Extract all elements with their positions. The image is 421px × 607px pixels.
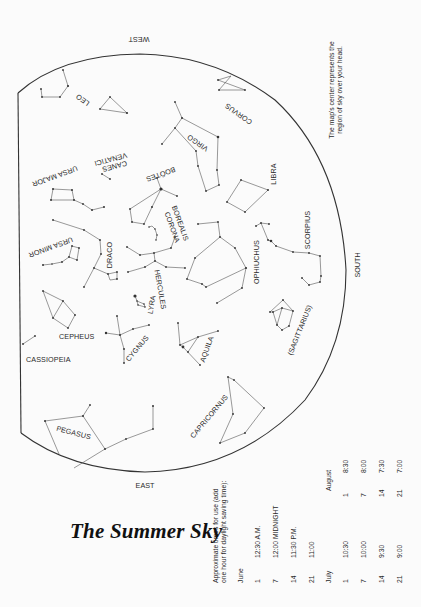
july-time-21: 9:00: [396, 545, 403, 558]
month-august: August: [325, 470, 333, 491]
august-day-21: 21: [396, 489, 403, 497]
month-july: July: [325, 570, 333, 583]
times-table: Approximate times for use (add one hour …: [212, 460, 403, 583]
direction-east: EAST: [136, 481, 155, 490]
label-sagittarius: (SAGITTARIUS): [285, 304, 313, 357]
august-time-21: 7:00: [396, 460, 403, 473]
constellation-lyra-lines: [133, 294, 145, 307]
july-time-7: 10:00: [360, 541, 367, 558]
label-ursa-major: URSA MAJOR: [31, 164, 79, 189]
july-day-1: 1: [342, 579, 349, 583]
label-scorpius: SCORPIUS: [303, 211, 312, 249]
june-time-21: 11:00: [308, 541, 315, 558]
label-pegasus: PEGASUS: [55, 424, 92, 442]
constellation-virgo-lines: [161, 101, 220, 192]
page-title: The Summer Sky: [70, 519, 222, 544]
july-time-14: 9:30: [378, 545, 385, 558]
map-note-line1: The map's center represents the: [328, 41, 336, 139]
direction-south: SOUTH: [353, 252, 362, 277]
label-corvus: CORVUS: [223, 101, 254, 126]
june-time-1: 12:30 A.M.: [254, 525, 261, 558]
june-day-7: 7: [272, 579, 279, 583]
constellation-cassiopeia-lines: [22, 335, 36, 345]
month-june: June: [237, 568, 244, 583]
constellation-sagittarius-lines: [269, 299, 294, 331]
august-time-14: 7:30: [378, 460, 385, 473]
june-time-7: 12:00 MIDNIGHT: [272, 506, 279, 559]
label-draco: DRACO: [105, 241, 114, 268]
map-note-line2: region of sky over your head.: [336, 46, 344, 134]
august-day-1: 1: [342, 493, 349, 497]
label-leo: LEO: [74, 92, 91, 108]
label-lyra: LYRA: [145, 295, 157, 315]
label-aquila: AQUILA: [198, 335, 216, 364]
constellation-capricornus-lines: [219, 376, 265, 444]
label-bootes: BOÖTES: [145, 165, 177, 184]
june-day-14: 14: [290, 575, 297, 583]
constellation-corvus-lines: [217, 76, 246, 91]
constellation-corona-borealis-lines: [148, 226, 158, 241]
constellation-pegasus-lines: [44, 404, 154, 468]
july-time-1: 10:30: [342, 541, 349, 558]
june-day-21: 21: [308, 575, 315, 583]
direction-west: WEST: [128, 35, 149, 44]
july-day-14: 14: [378, 575, 385, 583]
july-day-7: 7: [360, 579, 367, 583]
label-cygnus: CYGNUS: [124, 333, 151, 363]
label-cassiopeia: CASSIOPEIA: [26, 355, 71, 364]
august-day-7: 7: [360, 493, 367, 497]
june-day-1: 1: [254, 579, 261, 583]
constellation-ursa-major-lines: [50, 188, 105, 211]
constellation-ophiuchus-lines: [186, 221, 247, 304]
label-ophiuchus: OPHIUCHUS: [252, 240, 261, 284]
constellation-cepheus-lines: [42, 290, 76, 329]
label-virgo: VIRGO: [185, 132, 210, 153]
august-day-14: 14: [378, 489, 385, 497]
label-ursa-minor: URSA MINOR: [27, 235, 74, 259]
july-day-21: 21: [396, 575, 403, 583]
june-time-14: 11:30 P.M.: [290, 526, 297, 558]
map-boundary-arc: [18, 54, 346, 472]
constellation-libra-lines: [226, 179, 269, 213]
label-capricornus: CAPRICORNUS: [188, 393, 230, 440]
august-time-1: 8:30: [342, 460, 349, 473]
august-time-7: 8:00: [360, 460, 367, 473]
label-libra: LIBRA: [269, 163, 278, 184]
label-cepheus: CEPHEUS: [59, 332, 95, 341]
map-boundary-edge: [18, 93, 21, 433]
sky-map: WEST EAST SOUTH The map's center represe…: [0, 0, 421, 607]
